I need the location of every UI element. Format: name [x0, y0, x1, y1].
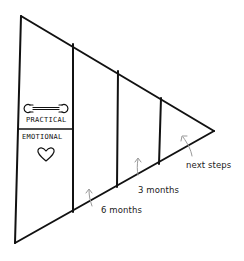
divider-2	[117, 71, 118, 187]
six-months-label: 6 months	[101, 205, 142, 215]
wrench-icon	[24, 104, 68, 112]
heart-icon	[38, 148, 54, 161]
timeline-arrows	[86, 136, 192, 206]
funnel-diagram	[0, 0, 244, 261]
three-months-label: 3 months	[138, 185, 179, 195]
emotional-label: EMOTIONAL	[22, 133, 63, 141]
practical-label: PRACTICAL	[26, 116, 67, 124]
next-steps-label: next steps	[186, 160, 231, 170]
divider-3	[159, 98, 161, 164]
